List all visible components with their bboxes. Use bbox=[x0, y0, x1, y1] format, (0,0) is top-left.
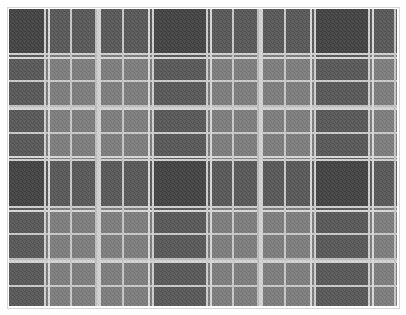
plaid-pattern-image bbox=[9, 9, 397, 306]
